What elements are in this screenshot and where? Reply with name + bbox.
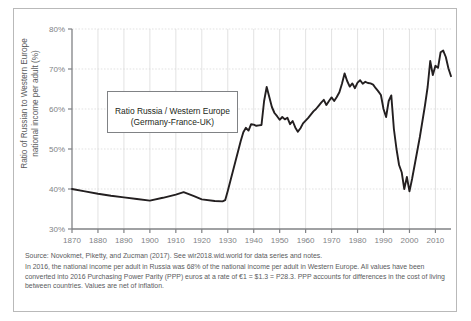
x-axis-tick-label: 1880 — [89, 236, 107, 245]
y-axis-tick-label: 80% — [49, 25, 65, 34]
x-axis-tick-label: 1920 — [193, 236, 211, 245]
chart-figure: Ratio of Russian to Western Europe natio… — [13, 8, 457, 312]
x-axis-tick-label: 1930 — [219, 236, 237, 245]
x-axis-tick-label: 1950 — [271, 236, 289, 245]
y-axis-tick-label: 40% — [49, 185, 65, 194]
x-axis-tick-label: 1890 — [115, 236, 133, 245]
plot-area: Ratio of Russian to Western Europe natio… — [14, 9, 458, 249]
y-axis-tick-label: 30% — [49, 225, 65, 234]
tick-labels: 30%40%50%60%70%80%1870188018901900191019… — [49, 25, 445, 245]
x-axis-tick-label: 1870 — [63, 236, 81, 245]
y-axis-tick-label: 70% — [49, 65, 65, 74]
x-axis-tick-label: 2000 — [401, 236, 419, 245]
y-axis-tick-label: 60% — [49, 105, 65, 114]
footer-source: Source: Novokmet, Piketty, and Zucman (2… — [25, 251, 449, 261]
x-axis-tick-label: 1960 — [297, 236, 315, 245]
x-axis-tick-label: 1980 — [349, 236, 367, 245]
y-axis-tick-label: 50% — [49, 145, 65, 154]
footer-note: In 2016, the national income per adult i… — [25, 262, 449, 291]
legend-box: Ratio Russia / Western Europe (Germany-F… — [107, 91, 238, 133]
figure-footer: Source: Novokmet, Piketty, and Zucman (2… — [25, 251, 449, 291]
x-axis-tick-label: 2010 — [427, 236, 445, 245]
x-axis-tick-label: 1940 — [245, 236, 263, 245]
x-axis-tick-label: 1900 — [141, 236, 159, 245]
x-axis-tick-label: 1990 — [375, 236, 393, 245]
legend-label: Ratio Russia / Western Europe (Germany-F… — [115, 106, 230, 127]
x-axis-tick-label: 1910 — [167, 236, 185, 245]
x-axis-tick-label: 1970 — [323, 236, 341, 245]
